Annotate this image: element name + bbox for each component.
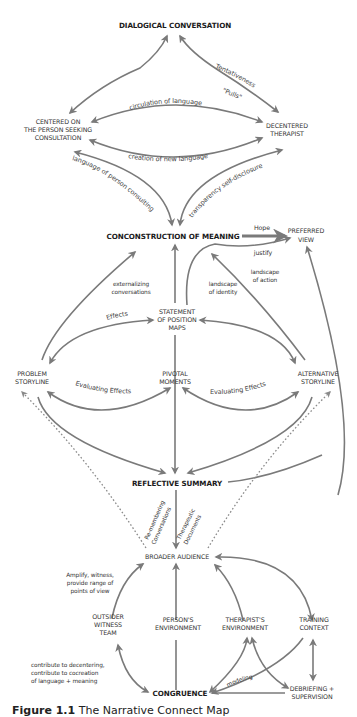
label-identity-2: of identity [209,289,238,296]
svg-text:ENVIRONMENT: ENVIRONMENT [155,624,201,631]
edge-dotted-alternative [208,392,330,548]
label-action-1: landscape [251,269,280,276]
svg-text:OF POSITION: OF POSITION [157,316,197,323]
node-persons-environment: PERSON'S ENVIRONMENT [155,616,201,631]
svg-text:THERAPIST'S: THERAPIST'S [224,616,264,623]
svg-text:TEAM: TEAM [98,629,116,636]
edge-problem-reflective [38,397,165,473]
label-hope: Hope [254,224,270,232]
node-training-context: TRAINING CONTEXT [298,616,329,631]
svg-text:CONTEXT: CONTEXT [299,624,328,631]
node-decentered-therapist: DECENTERED THERAPIST [266,122,308,137]
svg-text:PREFERRED: PREFERRED [288,227,325,234]
svg-text:SUPERVISION: SUPERVISION [292,693,333,700]
svg-text:OUTSIDER: OUTSIDER [92,613,124,620]
svg-text:CENTERED ON: CENTERED ON [36,118,81,125]
svg-text:ENVIRONMENT: ENVIRONMENT [222,624,268,631]
node-reflective-summary: REFLECTIVE SUMMARY [132,479,223,488]
svg-text:MOMENTS: MOMENTS [159,378,191,385]
node-problem-storyline: PROBLEM STORYLINE [15,370,49,385]
svg-text:THE PERSON SEEKING: THE PERSON SEEKING [23,126,92,133]
node-statement-of-position-maps: STATEMENT OF POSITION MAPS [157,308,197,331]
label-effects: Effects [105,310,129,322]
label-pulls: "Pulls" [221,86,243,101]
label-amplify-2: provide range of [67,580,114,587]
figure-number: Figure 1.1 [12,704,75,717]
node-centered-on-person: CENTERED ON THE PERSON SEEKING CONSULTAT… [23,118,92,141]
label-evaluating-right: Evaluating Effects [210,380,267,396]
label-tentativeness: Tentativeness [213,62,257,90]
label-contribute-1: contribute to decentering, [31,662,105,669]
node-outsider-witness-team: OUTSIDER WITNESS TEAM [92,613,124,636]
label-modeling: modeling [226,674,254,688]
edge-creation [90,138,262,157]
figure-title: The Narrative Connect Map [79,704,230,717]
svg-text:ALTERNATIVE: ALTERNATIVE [298,370,339,377]
label-language-person: language of person consulting [71,154,155,213]
svg-text:VIEW: VIEW [298,236,315,243]
node-coconstruction-of-meaning: CONCONSTRUCTION OF MEANING [107,232,240,241]
node-dialogical-conversation: DIALOGICAL CONVERSATION [119,21,231,30]
svg-text:THERAPIST: THERAPIST [269,130,304,137]
svg-text:DECENTERED: DECENTERED [266,122,308,129]
edge-externalizing [42,252,135,360]
edge-alternative-reflective [188,397,312,473]
svg-text:STATEMENT: STATEMENT [159,308,195,315]
node-alternative-storyline: ALTERNATIVE STORYLINE [298,370,339,385]
edge-effects [50,320,153,363]
node-congruence: CONGRUENCE [153,689,208,698]
label-externalizing-1: externalizing [113,281,150,288]
edge-therapist-broader [215,565,243,620]
label-externalizing-2: conversations [111,289,150,295]
svg-text:DEBRIEFING +: DEBRIEFING + [290,685,335,692]
label-contribute-3: of language + meaning [31,678,98,685]
node-therapists-environment: THERAPIST'S ENVIRONMENT [222,616,268,631]
label-evaluating-left: Evaluating Effects [74,379,131,395]
svg-text:TRAINING: TRAINING [298,616,329,623]
edge-training-broader [216,557,312,620]
node-pivotal-moments: PIVOTAL MOMENTS [159,370,191,385]
svg-text:CONSULTATION: CONSULTATION [35,134,82,141]
edge-circulation [92,105,262,122]
edge-effects-right [200,320,295,363]
edge-outsider-congruence [118,645,148,692]
label-amplify-3: points of view [70,588,109,595]
edge-labels: Tentativeness "Pulls" circulation of lan… [31,62,280,688]
label-identity-1: landscape [209,281,238,288]
edge-therapist-debriefing [252,638,288,688]
svg-text:PERSON'S: PERSON'S [163,616,194,623]
edge-reflective-right [228,455,322,482]
svg-text:PIVOTAL: PIVOTAL [162,370,188,377]
svg-text:MAPS: MAPS [168,324,185,331]
svg-text:STORYLINE: STORYLINE [15,378,49,385]
svg-text:PROBLEM: PROBLEM [17,370,47,377]
svg-text:WITNESS: WITNESS [94,621,122,628]
node-broader-audience: BROADER AUDIENCE [145,553,209,560]
edge-outsider-broader [112,564,143,618]
narrative-connect-map: DIALOGICAL CONVERSATION CENTERED ON THE … [0,0,357,717]
label-circulation: circulation of language [128,97,202,112]
label-action-2: of action [253,277,278,283]
label-justify: justify [253,249,273,257]
node-preferred-view: PREFERRED VIEW [288,227,325,243]
edge-dotted-problem [22,392,146,548]
svg-text:STORYLINE: STORYLINE [301,378,335,385]
figure-caption: Figure 1.1 The Narrative Connect Map [12,704,230,717]
node-debriefing-supervision: DEBRIEFING + SUPERVISION [290,685,335,700]
label-contribute-2: contribute to cocreation [31,670,99,676]
label-amplify-1: Amplify, witness, [66,572,114,579]
